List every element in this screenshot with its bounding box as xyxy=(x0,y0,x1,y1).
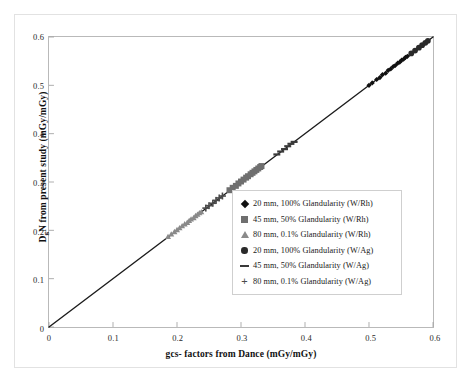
legend-item-label: 80 mm, 0.1% Glandularity (W/Ag) xyxy=(253,277,371,286)
series-5 xyxy=(273,141,297,156)
legend-marker-dash-icon xyxy=(238,265,251,267)
x-tick-label: 0.4 xyxy=(301,333,312,343)
legend-marker-triangle-icon xyxy=(238,231,251,238)
data-point-circle xyxy=(425,38,431,44)
y-axis-label: DgN from present study (mGy/mGy) xyxy=(38,21,50,313)
legend: 20 mm, 100% Glandularity (W/Rh)45 mm, 50… xyxy=(232,190,402,295)
legend-marker-square-icon xyxy=(238,216,251,223)
x-tick-label: 0.2 xyxy=(172,333,183,343)
legend-item[interactable]: 45 mm, 50% Glandularity (W/Ag) xyxy=(238,258,395,274)
legend-item[interactable]: 20 mm, 100% Glandularity (W/Ag) xyxy=(238,243,395,259)
legend-item-label: 20 mm, 100% Glandularity (W/Rh) xyxy=(253,199,373,208)
x-tick-label: 0.3 xyxy=(237,333,248,343)
legend-marker-diamond-icon xyxy=(238,201,251,207)
legend-item[interactable]: 80 mm, 0.1% Glandularity (W/Rh) xyxy=(238,227,395,243)
x-tick-label: 0.1 xyxy=(108,333,119,343)
x-tick-label: 0 xyxy=(47,333,51,343)
figure-frame: 00.10.20.30.40.50.600.10.20.30.40.50.6 g… xyxy=(14,14,457,368)
y-axis-label-lead: D xyxy=(38,236,48,243)
data-point-square xyxy=(258,163,264,169)
series-1 xyxy=(366,54,410,88)
x-tick-label: 0.6 xyxy=(430,333,441,343)
legend-item[interactable]: 45 mm, 50% Glandularity (W/Rh) xyxy=(238,212,395,228)
y-tick-label: 0 xyxy=(40,324,44,334)
x-axis-label: gcs- factors from Dance (mGy/mGy) xyxy=(48,349,434,359)
legend-item[interactable]: +80 mm, 0.1% Glandularity (W/Ag) xyxy=(238,274,395,290)
data-point-dash xyxy=(291,141,298,143)
data-point-dash xyxy=(287,143,294,145)
data-point-dash xyxy=(273,153,280,155)
data-point-dash xyxy=(277,150,284,152)
legend-item-label: 45 mm, 50% Glandularity (W/Ag) xyxy=(253,261,369,270)
y-axis-label-main: N from present study (mGy/mGy) xyxy=(38,92,48,232)
series-2 xyxy=(226,163,264,193)
legend-item-label: 80 mm, 0.1% Glandularity (W/Rh) xyxy=(253,230,371,239)
legend-item-label: 45 mm, 50% Glandularity (W/Rh) xyxy=(253,215,369,224)
legend-marker-circle-icon xyxy=(238,247,251,254)
legend-item[interactable]: 20 mm, 100% Glandularity (W/Rh) xyxy=(238,196,395,212)
x-tick-label: 0.5 xyxy=(365,333,376,343)
data-point-dash xyxy=(284,145,291,147)
series-4 xyxy=(408,38,430,56)
legend-marker-plus-icon: + xyxy=(238,277,251,285)
legend-item-label: 20 mm, 100% Glandularity (W/Ag) xyxy=(253,246,373,255)
series-3 xyxy=(165,209,204,239)
data-point-dash xyxy=(281,148,288,150)
y-axis-label-subscript: g xyxy=(42,232,50,236)
